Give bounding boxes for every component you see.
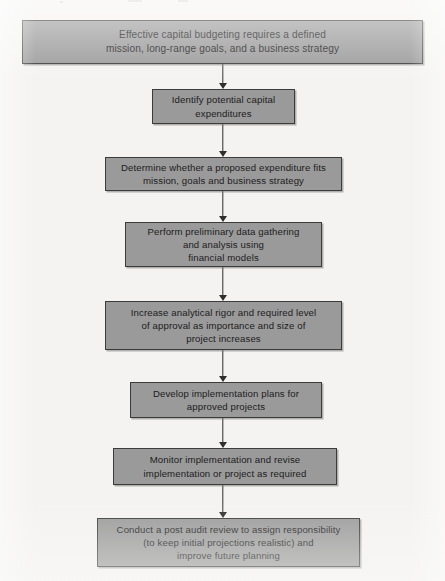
flowchart-node-8: Conduct a post audit review to assign re… xyxy=(97,518,360,567)
flowchart-node-1-label: Effective capital budgeting requires a d… xyxy=(28,28,417,56)
flowchart-connector-6-7 xyxy=(215,418,231,448)
scan-artifact xyxy=(60,1,63,3)
flowchart-node-6-label: Develop implementation plans for approve… xyxy=(136,387,316,413)
flowchart-node-2: Identify potential capital expenditures xyxy=(152,89,295,124)
flowchart-connector-7-8 xyxy=(215,485,231,518)
scan-artifact xyxy=(178,0,188,2)
flowchart-node-2-label: Identify potential capital expenditures xyxy=(158,93,289,119)
flowchart-connector-3-4 xyxy=(215,191,231,222)
flowchart-node-8-label: Conduct a post audit review to assign re… xyxy=(103,523,354,563)
flowchart-node-6: Develop implementation plans for approve… xyxy=(130,382,322,418)
flowchart-connector-2-3 xyxy=(215,124,231,157)
connector-stem xyxy=(222,191,223,216)
connector-stem xyxy=(222,350,223,376)
flowchart-node-7: Monitor implementation and revise implem… xyxy=(113,448,337,485)
flowchart-node-5-label: Increase analytical rigor and required l… xyxy=(111,306,336,346)
flowchart-node-4-label: Perform preliminary data gathering and a… xyxy=(131,225,316,265)
connector-stem xyxy=(222,267,223,295)
flowchart-node-4: Perform preliminary data gathering and a… xyxy=(125,222,322,267)
flowchart-node-7-label: Monitor implementation and revise implem… xyxy=(119,453,331,479)
scan-artifact xyxy=(128,0,142,2)
connector-stem xyxy=(222,64,223,83)
flowchart-node-3-label: Determine whether a proposed expenditure… xyxy=(111,161,336,187)
flowchart-node-3: Determine whether a proposed expenditure… xyxy=(105,157,342,191)
flowchart-connector-5-6 xyxy=(215,350,231,382)
flowchart-connector-4-5 xyxy=(215,267,231,301)
flowchart-connector-1-2 xyxy=(215,64,231,89)
connector-stem xyxy=(222,485,223,512)
connector-stem xyxy=(222,418,223,442)
connector-stem xyxy=(222,124,223,151)
flowchart-node-1: Effective capital budgeting requires a d… xyxy=(22,20,423,64)
flowchart-canvas: Effective capital budgeting requires a d… xyxy=(0,0,445,581)
flowchart-node-5: Increase analytical rigor and required l… xyxy=(105,301,342,350)
